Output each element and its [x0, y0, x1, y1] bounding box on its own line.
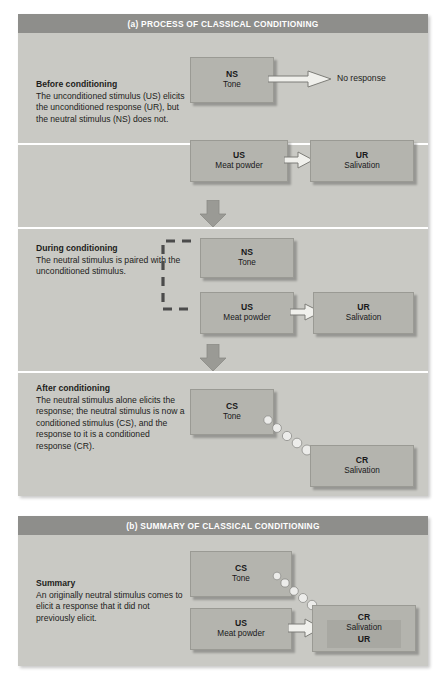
caption-before: Before conditioning The unconditioned st… — [36, 79, 186, 125]
box-before-us[interactable]: US Meat powder — [190, 140, 288, 182]
box-before-ns-label: Tone — [223, 80, 241, 91]
block-arrow-icon-before-ns — [268, 69, 332, 89]
caption-after-title: After conditioning — [36, 383, 186, 395]
box-summary-cr-code: CR — [346, 612, 382, 623]
box-during-ns[interactable]: NS Tone — [200, 238, 294, 278]
caption-before-body: The unconditioned stimulus (US) elicits … — [36, 91, 185, 124]
box-after-cr-label: Salivation — [344, 466, 380, 477]
box-during-ns-code: NS — [238, 247, 256, 258]
box-before-ur[interactable]: UR Salivation — [310, 140, 414, 182]
box-summary-cs-code: CS — [232, 563, 250, 574]
box-during-us-label: Meat powder — [223, 313, 270, 324]
box-during-ns-label: Tone — [238, 258, 256, 269]
box-before-ns-code: NS — [223, 69, 241, 80]
box-after-cr[interactable]: CR Salivation — [310, 445, 414, 487]
caption-after: After conditioning The neutral stimulus … — [36, 383, 186, 453]
caption-summary-body: An originally neutral stimulus comes to … — [36, 590, 183, 623]
box-during-us-code: US — [223, 302, 270, 313]
label-no-response: No response — [337, 73, 386, 83]
caption-before-title: Before conditioning — [36, 79, 186, 91]
figure-root: (a) PROCESS OF CLASSICAL CONDITIONING Be… — [0, 0, 446, 682]
box-summary-us-label: Meat powder — [217, 629, 264, 640]
down-arrow-icon-1 — [198, 200, 228, 232]
box-summary-cs-label: Tone — [232, 574, 250, 585]
box-after-cr-code: CR — [344, 455, 380, 466]
caption-summary: Summary An originally neutral stimulus c… — [36, 578, 186, 624]
caption-summary-title: Summary — [36, 578, 186, 590]
dashed-pairing-bracket-icon — [155, 238, 195, 316]
panel-b-title: (b) SUMMARY OF CLASSICAL CONDITIONING — [18, 516, 428, 535]
box-summary-cr-label: Salivation — [346, 623, 382, 634]
box-after-cs-label: Tone — [223, 412, 241, 423]
box-during-us[interactable]: US Meat powder — [200, 292, 294, 334]
box-before-us-code: US — [215, 150, 262, 161]
box-before-ur-label: Salivation — [344, 161, 380, 172]
box-during-ur[interactable]: UR Salivation — [313, 292, 414, 334]
down-arrow-icon-2 — [198, 344, 228, 376]
caption-after-body: The neutral stimulus alone elicits the r… — [36, 395, 185, 451]
box-before-ns[interactable]: NS Tone — [190, 57, 274, 103]
box-summary-us[interactable]: US Meat powder — [190, 608, 292, 650]
box-summary-cr[interactable]: CR Salivation UR — [312, 605, 416, 652]
box-summary-cr-label2: UR — [346, 634, 382, 645]
box-summary-us-code: US — [217, 618, 264, 629]
box-during-ur-code: UR — [346, 302, 382, 313]
box-before-us-label: Meat powder — [215, 161, 262, 172]
box-during-ur-label: Salivation — [346, 313, 382, 324]
box-after-cs-code: CS — [223, 401, 241, 412]
panel-a-title: (a) PROCESS OF CLASSICAL CONDITIONING — [18, 14, 428, 33]
box-before-ur-code: UR — [344, 150, 380, 161]
